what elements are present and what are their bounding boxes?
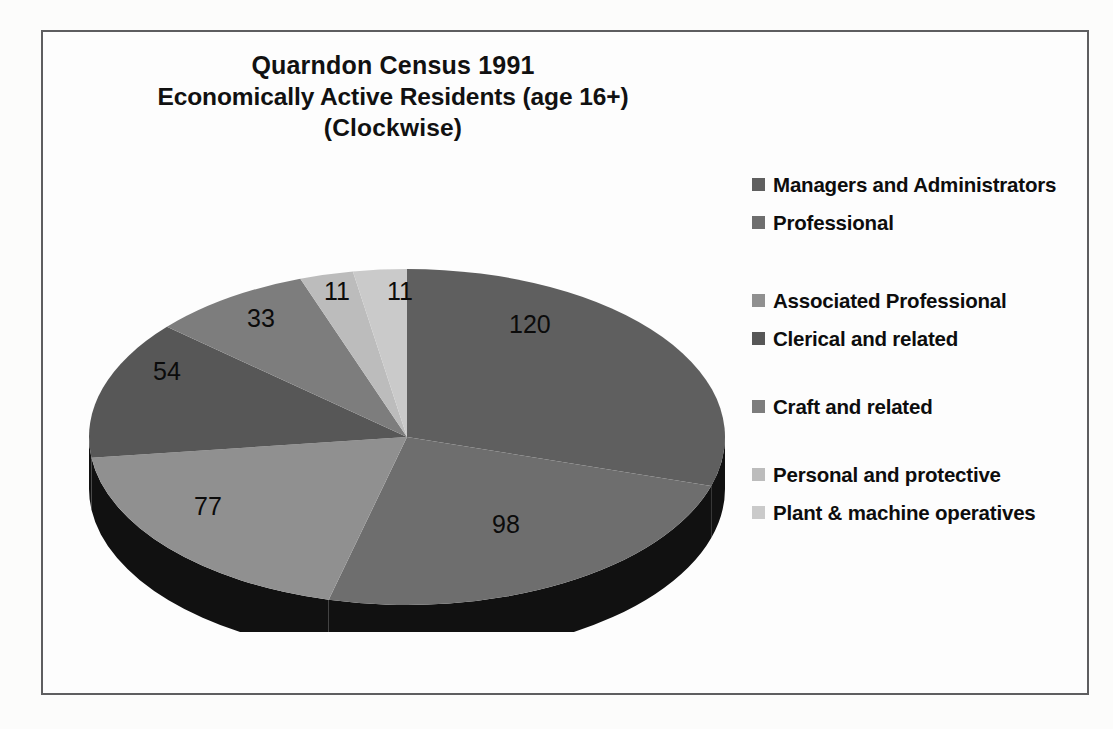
legend-item-label: Plant & machine operatives (773, 500, 1036, 526)
legend-item-label: Craft and related (773, 394, 933, 420)
scanned-page: Quarndon Census 1991 Economically Active… (0, 0, 1113, 729)
chart-legend: Managers and Administrators Professional… (752, 172, 1082, 526)
chart-frame: Quarndon Census 1991 Economically Active… (41, 30, 1089, 695)
legend-swatch-icon (752, 468, 765, 481)
legend-swatch-icon (752, 506, 765, 519)
legend-item-label: Personal and protective (773, 462, 1001, 488)
chart-title-line-1: Quarndon Census 1991 (43, 50, 743, 81)
legend-swatch-icon (752, 294, 765, 307)
pie-top-faces (89, 269, 725, 605)
chart-title-line-3: (Clockwise) (43, 112, 743, 143)
legend-item-clerical-and-related[interactable]: Clerical and related (752, 326, 1082, 352)
slice-value-label-personal: 11 (324, 277, 350, 306)
legend-swatch-icon (752, 400, 765, 413)
legend-swatch-icon (752, 216, 765, 229)
chart-title: Quarndon Census 1991 Economically Active… (43, 50, 743, 143)
slice-value-label-plant: 11 (387, 277, 413, 306)
legend-item-label: Professional (773, 210, 894, 236)
legend-item-label: Associated Professional (773, 288, 1007, 314)
legend-item-plant-and-machine-operatives[interactable]: Plant & machine operatives (752, 500, 1082, 526)
legend-item-associated-professional[interactable]: Associated Professional (752, 288, 1082, 314)
legend-item-label: Clerical and related (773, 326, 958, 352)
legend-item-personal-and-protective[interactable]: Personal and protective (752, 462, 1082, 488)
legend-item-managers-and-administrators[interactable]: Managers and Administrators (752, 172, 1082, 198)
slice-value-label-professional: 98 (492, 510, 520, 539)
slice-value-label-associated: 77 (194, 492, 222, 521)
chart-title-line-2: Economically Active Residents (age 16+) (43, 81, 743, 112)
slice-value-label-managers: 120 (509, 310, 551, 339)
legend-item-craft-and-related[interactable]: Craft and related (752, 394, 1082, 420)
legend-swatch-icon (752, 332, 765, 345)
legend-item-label: Managers and Administrators (773, 172, 1056, 198)
slice-value-label-craft: 33 (247, 304, 275, 333)
legend-item-professional[interactable]: Professional (752, 210, 1082, 236)
pie-chart: 120 98 77 54 33 11 11 (67, 232, 747, 632)
slice-value-label-clerical: 54 (153, 357, 181, 386)
legend-swatch-icon (752, 178, 765, 191)
